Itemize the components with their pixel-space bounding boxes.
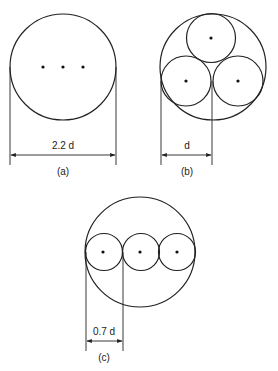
dimension-label: d <box>184 140 190 151</box>
dimension-label: 2.2 d <box>52 140 74 151</box>
conductor-dot <box>175 250 178 253</box>
panel-caption: (a) <box>57 166 69 177</box>
panel-a: 2.2 d (a) <box>10 14 116 177</box>
conductor-dot <box>41 65 44 68</box>
dimension-label: 0.7 d <box>93 326 115 337</box>
panel-caption: (b) <box>181 166 193 177</box>
conductor-dot <box>236 79 239 82</box>
conductor-dot <box>209 36 212 39</box>
panel-b: d (b) <box>160 14 266 178</box>
diagram-canvas: 2.2 d (a) d (b) 0.7 d (c) <box>0 0 278 371</box>
conductor-dot <box>138 250 141 253</box>
conductor-dot <box>184 79 187 82</box>
panel-c: 0.7 d (c) <box>85 197 196 363</box>
panel-caption: (c) <box>98 352 110 363</box>
conductor-dot <box>61 65 64 68</box>
conductor-dot <box>81 65 84 68</box>
conductor-dot <box>101 250 104 253</box>
